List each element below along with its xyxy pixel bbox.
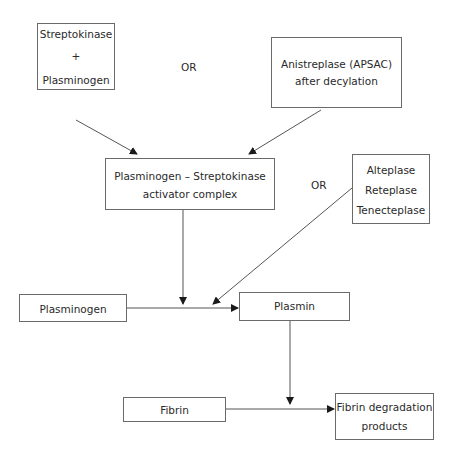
box-text: Fibrin degradation	[336, 401, 433, 413]
streptokinase-plasminogen-box: Streptokinase + Plasminogen	[37, 23, 115, 90]
box-text: Plasmin	[240, 300, 349, 312]
fibrin-box: Fibrin	[123, 397, 226, 422]
box-text: Tenecteplase	[353, 204, 429, 216]
box-text: activator complex	[106, 188, 274, 200]
box-text: Anistreplase (APSAC)	[272, 58, 401, 70]
or-label-middle: OR	[311, 179, 327, 191]
box-text: products	[336, 420, 433, 432]
box-text: Alteplase	[353, 164, 429, 176]
activator-complex-box: Plasminogen – Streptokinase activator co…	[105, 158, 275, 210]
box-text: Plasminogen	[38, 74, 114, 86]
box-text: after decylation	[272, 75, 401, 87]
anistreplase-box: Anistreplase (APSAC) after decylation	[271, 37, 402, 108]
tissue-plasminogen-activators-box: Alteplase Reteplase Tenecteplase	[352, 154, 430, 224]
box-text: Plasminogen	[20, 303, 126, 315]
plasminogen-box: Plasminogen	[19, 294, 127, 322]
fibrin-degradation-products-box: Fibrin degradation products	[335, 393, 434, 440]
box-text: Fibrin	[124, 404, 225, 416]
arrow-anistreplase-to-complex	[249, 110, 321, 154]
or-label-top: OR	[181, 61, 197, 73]
box-text: Streptokinase	[38, 28, 114, 40]
box-text: Reteplase	[353, 184, 429, 196]
arrow-streptokinase-to-complex	[76, 120, 137, 154]
plasmin-box: Plasmin	[239, 292, 350, 321]
plus-sign: +	[38, 50, 114, 62]
box-text: Plasminogen – Streptokinase	[106, 170, 274, 182]
